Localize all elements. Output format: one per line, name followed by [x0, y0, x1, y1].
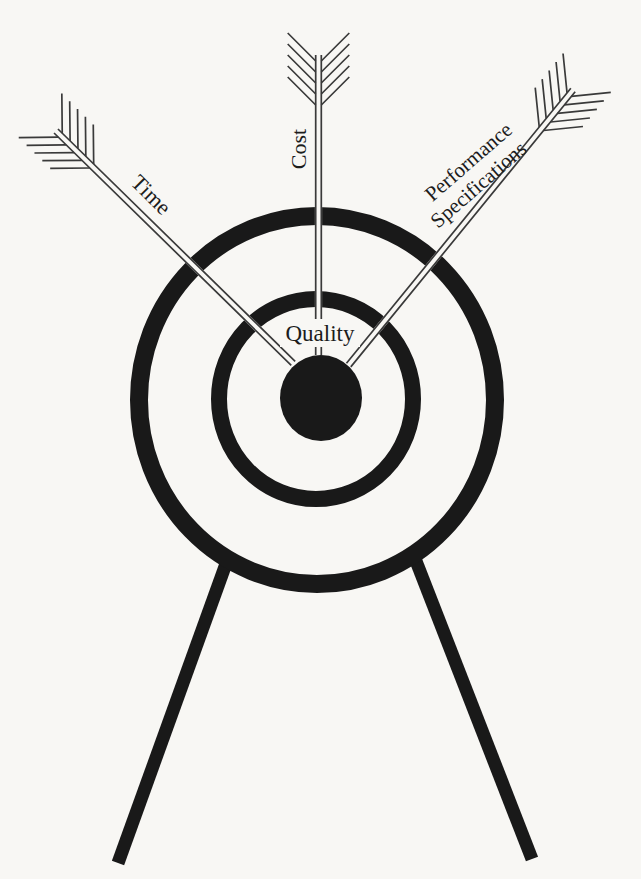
bullseye	[280, 355, 362, 441]
figure-page: Time Cost Performance Specifications Qua…	[0, 0, 641, 879]
cost-label: Cost	[286, 129, 311, 169]
target-diagram: Time Cost Performance Specifications Qua…	[0, 0, 641, 879]
quality-label: Quality	[286, 321, 355, 346]
